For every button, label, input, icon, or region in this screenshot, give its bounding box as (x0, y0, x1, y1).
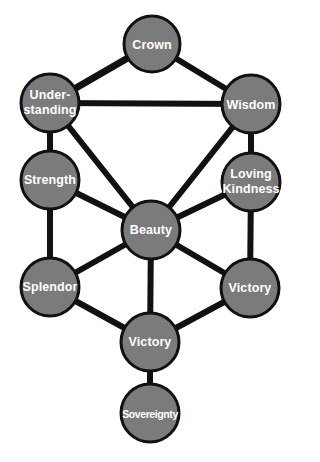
label-loving-kindness-line1: Loving (222, 167, 279, 182)
label-understanding-line1: Under- (24, 88, 77, 103)
label-loving-kindness: Loving Kindness (222, 167, 279, 197)
label-victory-bottom: Victory (129, 335, 172, 350)
label-wisdom: Wisdom (226, 98, 275, 113)
label-understanding-line2: standing (24, 103, 77, 118)
label-crown: Crown (132, 38, 171, 53)
label-loving-kindness-line2: Kindness (222, 182, 279, 197)
label-beauty: Beauty (130, 223, 172, 238)
label-victory-right: Victory (229, 281, 272, 296)
label-understanding: Under- standing (24, 88, 77, 118)
label-strength: Strength (24, 173, 76, 188)
label-sovereignty: Sovereignty (122, 407, 178, 422)
label-splendor: Splendor (23, 280, 78, 295)
